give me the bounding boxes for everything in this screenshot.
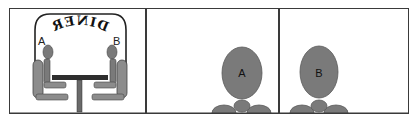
bottom-margin	[0, 114, 418, 123]
person-b-seated	[92, 45, 127, 100]
svg-text:DINER: DINER	[49, 13, 111, 35]
person-a-label: A	[238, 67, 246, 79]
diner-sign: DINER	[49, 13, 111, 35]
table-leg	[77, 80, 82, 112]
chair-back-right	[117, 60, 127, 98]
chair-back-left	[33, 60, 43, 98]
torso-a	[44, 59, 50, 83]
diagram-canvas: DINER A B A	[0, 0, 418, 123]
table-top	[52, 75, 108, 80]
panel-1-diner-scene: DINER A B	[33, 13, 127, 112]
strip-bottom-border	[9, 113, 409, 115]
person-a-seated	[33, 45, 68, 100]
person-b-label: B	[315, 67, 322, 79]
legs-b	[94, 82, 116, 88]
head-b	[107, 45, 117, 59]
panel-2-person-a: A	[212, 47, 271, 121]
diner-sign-text: DINER	[49, 13, 111, 35]
label-b: B	[113, 35, 120, 47]
chair-seat-left	[36, 94, 68, 100]
torso-b	[110, 59, 116, 83]
label-a: A	[38, 35, 46, 47]
head-a	[43, 45, 53, 59]
legs-a	[44, 82, 66, 88]
neck-b	[311, 100, 327, 112]
neck-a	[234, 100, 250, 112]
chair-seat-right	[92, 94, 124, 100]
panel-3-person-b: B	[290, 46, 348, 121]
